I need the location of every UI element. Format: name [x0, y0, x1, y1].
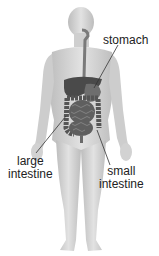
- stomach-label: stomach: [103, 34, 148, 47]
- right-arm: [109, 54, 130, 154]
- left-arm: [33, 54, 54, 154]
- large-intestine-label-line2: intestine: [8, 168, 53, 181]
- large-intestine-label: large intestine: [8, 155, 53, 181]
- digestive-system-diagram: stomach large intestine small intestine: [0, 0, 159, 256]
- right-leg: [81, 140, 106, 251]
- rectum: [80, 135, 83, 143]
- stomach-label-text: stomach: [103, 34, 148, 47]
- left-leg: [56, 140, 81, 251]
- right-hand: [120, 143, 132, 161]
- small-intestine-label: small intestine: [99, 165, 144, 191]
- small-intestine-label-line2: intestine: [99, 178, 144, 191]
- head: [68, 7, 94, 37]
